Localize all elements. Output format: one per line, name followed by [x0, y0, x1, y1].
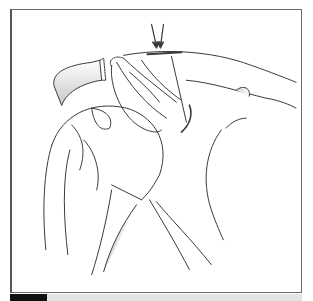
- figure-frame: [10, 9, 302, 293]
- figure-caption-bar: [47, 294, 302, 301]
- figure-label-block: [10, 294, 47, 301]
- shoulder-illustration: [12, 10, 301, 292]
